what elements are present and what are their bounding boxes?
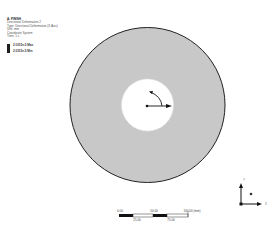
graphics-viewport[interactable]: A: FINISH Directional Deformation 2 Type… — [0, 0, 277, 228]
model-canvas[interactable] — [0, 0, 277, 228]
scale-label-25: 25.00 — [133, 219, 141, 222]
scale-label-50: 50.00 — [150, 210, 158, 213]
scale-label-75: 75.00 — [167, 219, 175, 222]
scale-label-0: 0.00 — [117, 210, 123, 213]
triad-y-label: Y — [243, 179, 245, 182]
triad-x-label: X — [265, 203, 267, 206]
z-axis-dot — [250, 193, 253, 196]
axis-triad[interactable] — [239, 183, 262, 206]
scale-label-100: 100.00 (mm) — [183, 210, 200, 213]
